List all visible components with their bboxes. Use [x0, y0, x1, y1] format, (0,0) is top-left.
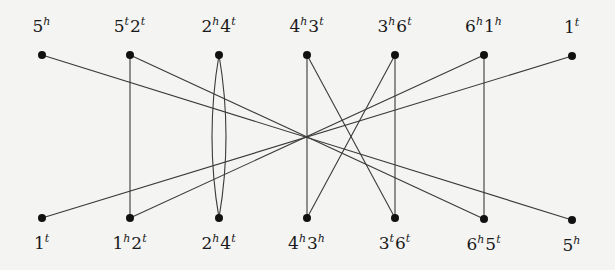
node-dot [38, 214, 46, 222]
node-dot [391, 214, 399, 222]
node-label: 5h [33, 16, 52, 35]
graph-diagram: 5h5t2t2h4t4h3t3h6t6h1h1t1t1h2t2h4t4h3h3t… [0, 0, 615, 270]
node-dot [215, 51, 223, 59]
node-dot [215, 214, 223, 222]
node-dot [568, 52, 576, 60]
node-dot [480, 51, 488, 59]
node-label: 6h5t [466, 234, 501, 253]
node-label: 1h2t [112, 233, 147, 252]
node-dot [303, 51, 311, 59]
node-label: 6h1h [465, 16, 503, 35]
curved-edge [212, 55, 219, 218]
node-label: 2h4t [201, 16, 236, 35]
node-dot [126, 51, 134, 59]
node-label: 5h [563, 235, 582, 254]
node-dot [391, 51, 399, 59]
node-label: 5t2t [114, 16, 147, 35]
node-dot [568, 216, 576, 224]
node-dot [303, 214, 311, 222]
edge-layer [0, 0, 615, 270]
node-dot [38, 51, 46, 59]
node-label: 2h4t [201, 233, 236, 252]
node-label: 4h3h [288, 233, 326, 252]
node-label: 1t [564, 17, 580, 36]
node-label: 1t [34, 233, 50, 252]
curved-edge [219, 55, 226, 218]
node-label: 4h3t [289, 16, 324, 35]
node-label: 3h6t [377, 16, 412, 35]
node-dot [480, 215, 488, 223]
node-dot [126, 214, 134, 222]
node-label: 3t6t [379, 233, 412, 252]
